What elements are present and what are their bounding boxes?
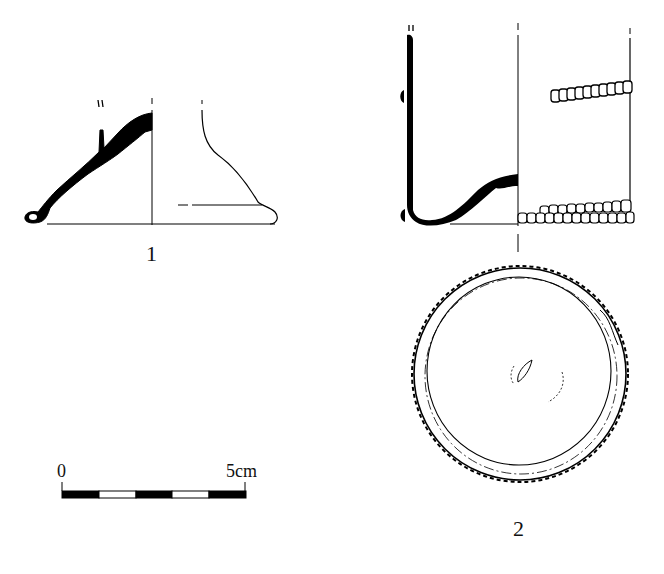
scale-end-label: 5cm bbox=[226, 462, 257, 480]
crimped-trail-outline bbox=[412, 266, 628, 482]
pontil-mark bbox=[518, 360, 532, 382]
vessel-1-foot-ring-hollow bbox=[29, 214, 37, 220]
drawing-canvas bbox=[0, 0, 664, 574]
base-applied-trail bbox=[518, 200, 634, 223]
vessel-1-exterior-outline bbox=[202, 110, 277, 224]
vessel-2-elevation bbox=[400, 23, 634, 252]
item-2-number: 2 bbox=[513, 518, 524, 540]
base-trail-section bbox=[401, 209, 406, 222]
applied-trail-section bbox=[400, 90, 404, 103]
break-marks bbox=[409, 25, 413, 31]
scale-start-label: 0 bbox=[57, 462, 66, 480]
scale-bar bbox=[62, 482, 246, 498]
vessel-1-section bbox=[25, 113, 152, 223]
item-1-number: 1 bbox=[146, 243, 157, 265]
vessel-2-base-plan bbox=[412, 266, 628, 482]
upper-applied-trail bbox=[551, 81, 632, 102]
vessel-2-section bbox=[407, 35, 518, 226]
vessel-1-drawing bbox=[25, 98, 277, 225]
break-marks bbox=[98, 100, 103, 107]
